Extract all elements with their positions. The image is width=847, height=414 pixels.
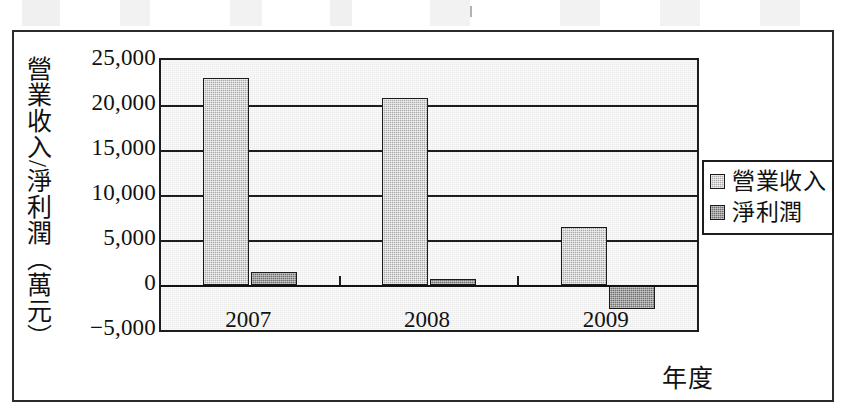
- y-axis-tick-label: 20,000: [36, 91, 156, 114]
- bar-fill: [252, 273, 296, 285]
- bar-營業收入-2009: [561, 227, 607, 285]
- y-axis-tick-labels: 25,00020,00015,00010,0005,0000−5,000: [30, 32, 156, 404]
- bar-fill: [610, 286, 654, 308]
- y-axis-tick-label: 10,000: [36, 181, 156, 204]
- legend-label-net-profit: 淨利潤: [732, 201, 803, 224]
- bar-fill: [431, 280, 475, 284]
- bar-營業收入-2008: [382, 98, 428, 285]
- chart-frame: 營業收入/淨利潤（萬元） 25,00020,00015,00010,0005,0…: [12, 30, 834, 402]
- x-axis-title: 年度: [662, 366, 714, 392]
- x-axis-tick: [517, 276, 519, 285]
- y-axis-tick-label: 0: [36, 271, 156, 294]
- x-axis-tick-label-2007: 2007: [188, 308, 308, 331]
- bar-fill: [562, 228, 606, 284]
- legend-swatch-operating-revenue: [710, 174, 725, 189]
- plot-area: [159, 58, 699, 332]
- legend-label-operating-revenue: 營業收入: [732, 170, 826, 193]
- x-axis-tick: [339, 276, 341, 285]
- bar-fill: [383, 99, 427, 284]
- x-axis-tick-label-2008: 2008: [367, 308, 487, 331]
- legend-item[interactable]: 淨利潤: [710, 197, 826, 228]
- scan-artifact-mark: [470, 6, 472, 17]
- y-axis-tick-label: 15,000: [36, 136, 156, 159]
- y-axis-tick-label: 25,000: [36, 46, 156, 69]
- legend-swatch-net-profit: [710, 205, 725, 220]
- x-axis-tick-label-2009: 2009: [546, 308, 666, 331]
- chart-legend: 營業收入 淨利潤: [702, 160, 834, 235]
- legend-item[interactable]: 營業收入: [710, 166, 826, 197]
- bar-淨利潤-2009: [609, 285, 655, 309]
- scan-artifact-band: [0, 0, 847, 26]
- bar-淨利潤-2007: [251, 272, 297, 286]
- zero-axis-line: [161, 285, 697, 287]
- bar-fill: [204, 79, 248, 284]
- bar-營業收入-2007: [203, 78, 249, 285]
- y-axis-tick-label: −5,000: [36, 316, 156, 339]
- y-axis-tick-label: 5,000: [36, 226, 156, 249]
